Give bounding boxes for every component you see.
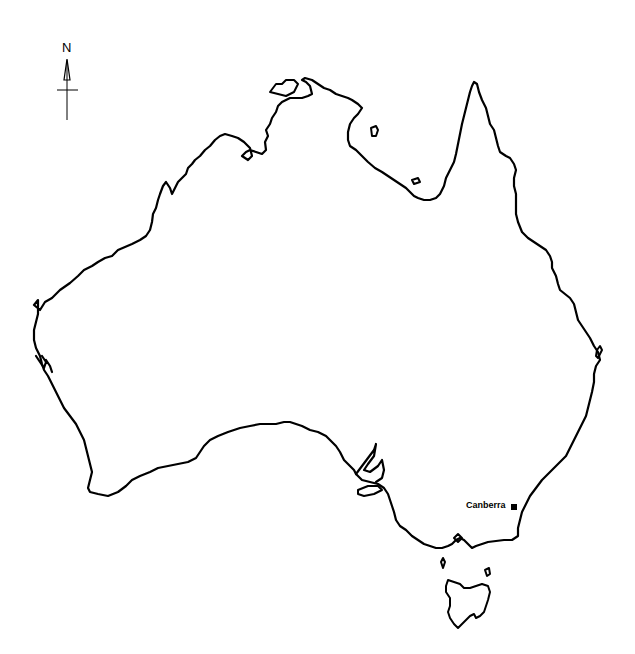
square-marker-icon: [511, 504, 517, 510]
mornington-island: [412, 178, 420, 184]
melville-island: [270, 80, 298, 96]
north-label: N: [62, 40, 71, 55]
australia-map: [0, 0, 635, 654]
mainland-coastline: [34, 78, 600, 548]
north-arrow-icon: [57, 59, 78, 120]
kangaroo-island: [358, 486, 382, 496]
city-label-canberra: Canberra: [466, 500, 506, 510]
tasmania: [446, 580, 490, 628]
king-island: [441, 558, 445, 568]
gulf-detail: [356, 444, 384, 482]
flinders-island: [485, 568, 490, 576]
groote-eylandt: [371, 126, 378, 136]
